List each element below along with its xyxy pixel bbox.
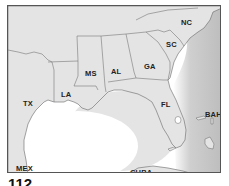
- label-bah: BAH: [205, 110, 221, 119]
- map-frame: NC SC GA AL MS LA TX FL BAH MEX CUBA: [7, 5, 221, 173]
- label-al: AL: [111, 67, 121, 76]
- label-nc: NC: [181, 18, 192, 27]
- label-ms: MS: [85, 69, 97, 78]
- lake-okeechobee: [175, 117, 181, 124]
- label-ga: GA: [144, 62, 156, 71]
- map-graphic: [8, 6, 221, 173]
- label-mex: MEX: [16, 164, 33, 173]
- label-tx: TX: [23, 99, 33, 108]
- figure-number: 112: [8, 176, 32, 186]
- label-la: LA: [61, 90, 71, 99]
- label-cuba: CUBA: [130, 168, 152, 173]
- label-sc: SC: [166, 40, 177, 49]
- label-fl: FL: [161, 100, 171, 109]
